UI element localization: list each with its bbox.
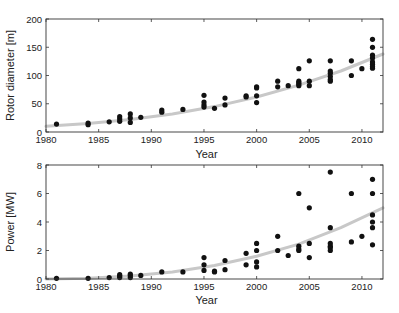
data-point bbox=[201, 93, 206, 98]
data-point bbox=[201, 262, 206, 267]
x-tick-label: 2000 bbox=[246, 281, 267, 292]
x-tick-label: 2000 bbox=[246, 134, 267, 145]
data-point bbox=[159, 269, 164, 274]
data-point bbox=[117, 119, 122, 124]
data-point bbox=[296, 83, 301, 88]
data-point bbox=[296, 248, 301, 253]
x-tick-label: 2005 bbox=[299, 281, 320, 292]
data-point bbox=[222, 258, 227, 263]
data-point bbox=[212, 269, 217, 274]
data-point bbox=[307, 79, 312, 84]
y-tick-label: 4 bbox=[37, 217, 42, 228]
data-point bbox=[328, 225, 333, 230]
y-tick-label: 50 bbox=[31, 98, 42, 109]
y-tick-label: 0 bbox=[37, 274, 42, 285]
x-axis-label: Year bbox=[195, 294, 218, 306]
data-point bbox=[307, 83, 312, 88]
y-tick-label: 150 bbox=[26, 42, 42, 53]
data-point bbox=[349, 58, 354, 63]
trend-line bbox=[46, 54, 383, 126]
data-point bbox=[222, 102, 227, 107]
data-point bbox=[370, 66, 375, 71]
data-point bbox=[349, 191, 354, 196]
y-tick-label: 2 bbox=[37, 245, 42, 256]
data-point bbox=[244, 251, 249, 256]
data-point bbox=[328, 248, 333, 253]
x-axis-label: Year bbox=[195, 148, 218, 160]
data-point bbox=[254, 259, 259, 264]
data-point bbox=[296, 66, 301, 71]
data-point bbox=[286, 83, 291, 88]
data-point bbox=[107, 119, 112, 124]
data-point bbox=[328, 58, 333, 63]
data-point bbox=[370, 37, 375, 42]
data-point bbox=[370, 242, 375, 247]
data-point bbox=[201, 268, 206, 273]
axes-frame bbox=[46, 165, 383, 279]
x-tick-label: 1985 bbox=[88, 281, 109, 292]
data-point bbox=[370, 45, 375, 50]
data-point bbox=[138, 115, 143, 120]
data-point bbox=[138, 273, 143, 278]
data-point bbox=[86, 122, 91, 127]
data-point bbox=[307, 205, 312, 210]
data-point bbox=[212, 106, 217, 111]
data-point bbox=[254, 93, 259, 98]
x-tick-label: 1985 bbox=[88, 134, 109, 145]
y-tick-label: 6 bbox=[37, 188, 42, 199]
data-point bbox=[286, 253, 291, 258]
data-point bbox=[128, 120, 133, 125]
x-tick-label: 2005 bbox=[299, 134, 320, 145]
data-point bbox=[254, 241, 259, 246]
data-point bbox=[349, 239, 354, 244]
data-point bbox=[328, 79, 333, 84]
data-point bbox=[370, 225, 375, 230]
y-tick-label: 100 bbox=[26, 70, 42, 81]
rotor-diameter-plot: 1980198519901995200020052010050100150200… bbox=[4, 14, 383, 161]
data-point bbox=[201, 255, 206, 260]
x-tick-label: 1990 bbox=[141, 134, 162, 145]
data-point bbox=[254, 248, 259, 253]
data-point bbox=[370, 191, 375, 196]
x-tick-label: 2010 bbox=[351, 281, 372, 292]
data-point bbox=[359, 234, 364, 239]
y-axis-label: Power [MW] bbox=[4, 192, 16, 252]
data-point bbox=[275, 79, 280, 84]
data-point bbox=[254, 100, 259, 105]
data-point bbox=[275, 84, 280, 89]
data-point bbox=[349, 73, 354, 78]
data-point bbox=[307, 58, 312, 63]
x-tick-label: 1995 bbox=[193, 281, 214, 292]
y-tick-label: 200 bbox=[26, 14, 42, 25]
data-point bbox=[244, 94, 249, 99]
x-tick-label: 2010 bbox=[351, 134, 372, 145]
data-point bbox=[254, 85, 259, 90]
y-tick-label: 8 bbox=[37, 160, 42, 171]
data-point bbox=[201, 105, 206, 110]
y-tick-label: 0 bbox=[37, 127, 42, 138]
data-point bbox=[296, 191, 301, 196]
data-point bbox=[159, 110, 164, 115]
data-point bbox=[328, 170, 333, 175]
data-point bbox=[370, 212, 375, 217]
x-tick-label: 1995 bbox=[193, 134, 214, 145]
data-point bbox=[307, 255, 312, 260]
y-axis-label: Rotor diameter [m] bbox=[4, 30, 16, 121]
figure: 1980198519901995200020052010050100150200… bbox=[0, 0, 399, 313]
data-point bbox=[370, 219, 375, 224]
data-point bbox=[180, 107, 185, 112]
data-point bbox=[307, 241, 312, 246]
data-point bbox=[370, 177, 375, 182]
data-point bbox=[128, 115, 133, 120]
data-point bbox=[54, 122, 59, 127]
data-point bbox=[222, 96, 227, 101]
data-point bbox=[244, 262, 249, 267]
data-point bbox=[180, 269, 185, 274]
data-point bbox=[359, 66, 364, 71]
chart-canvas: 1980198519901995200020052010050100150200… bbox=[0, 0, 399, 313]
power-plot: 198019851990199520002005201002468YearPow… bbox=[4, 160, 383, 307]
data-point bbox=[275, 248, 280, 253]
x-tick-label: 1990 bbox=[141, 281, 162, 292]
data-point bbox=[254, 264, 259, 269]
data-point bbox=[222, 267, 227, 272]
